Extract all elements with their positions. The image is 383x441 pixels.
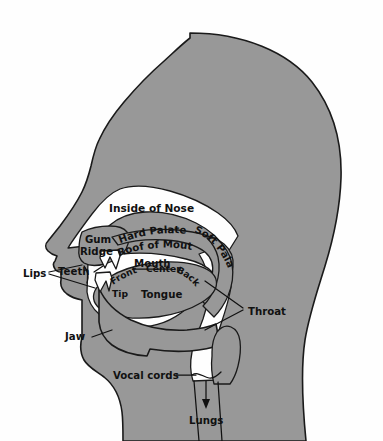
label-tongue: Tongue bbox=[141, 289, 182, 300]
label-center: Center bbox=[146, 263, 181, 274]
label-ridge: Ridge bbox=[80, 246, 113, 257]
label-teeth: Teeth bbox=[58, 266, 90, 277]
speech-organs-diagram: Inside of Nose Gum Ridge Hard Palate Sof… bbox=[0, 0, 383, 441]
label-throat: Throat bbox=[248, 306, 286, 317]
label-gum: Gum bbox=[85, 234, 111, 245]
label-lips: Lips bbox=[23, 268, 46, 279]
label-jaw: Jaw bbox=[64, 331, 86, 342]
anatomy-illustration: Inside of Nose Gum Ridge Hard Palate Sof… bbox=[0, 0, 383, 441]
label-inside-of-nose: Inside of Nose bbox=[109, 202, 194, 214]
label-lungs: Lungs bbox=[189, 415, 223, 426]
label-tip: Tip bbox=[112, 288, 128, 299]
label-vocal-cords: Vocal cords bbox=[113, 370, 179, 381]
